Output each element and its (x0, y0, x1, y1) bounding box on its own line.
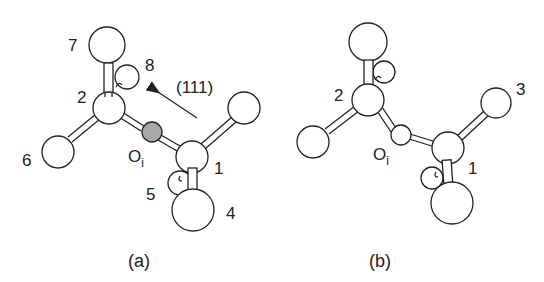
atom-8 (115, 65, 139, 89)
label-atom-8: 8 (145, 56, 154, 75)
label-atom-2: 2 (77, 88, 86, 107)
atom-b-bottom-big (431, 182, 473, 224)
oxygen-interstitial-diagram: 7 8 2 6 (111) Oi 1 5 4 (a) 2 3 (0, 0, 544, 282)
label-atom-7: 7 (68, 36, 77, 55)
label-atom-6: 6 (22, 151, 31, 170)
oxygen-interstitial-a (142, 122, 162, 142)
label-b-atom-1: 1 (468, 159, 477, 178)
atom-6 (42, 136, 74, 168)
atom-b-1 (432, 132, 464, 164)
atom-7 (89, 27, 125, 63)
atom-2 (93, 92, 125, 124)
label-atom-4: 4 (226, 204, 235, 223)
atom-4 (172, 189, 214, 231)
oxygen-interstitial-b (391, 125, 411, 145)
label-atom-5: 5 (146, 185, 155, 204)
caption-b: (b) (369, 251, 391, 271)
caption-a: (a) (128, 251, 150, 271)
atom-3 (228, 92, 260, 124)
label-atom-1: 1 (214, 159, 223, 178)
label-oxygen-a: Oi (128, 147, 144, 170)
panel-b (297, 23, 511, 224)
label-oxygen-b: Oi (373, 145, 389, 168)
atom-b-3 (481, 88, 511, 118)
label-b-atom-3: 3 (516, 80, 525, 99)
atom-b-top-small (373, 61, 395, 83)
atom-b-2 (352, 84, 384, 116)
label-direction-111: (111) (176, 78, 213, 97)
atom-b-top-big (349, 23, 387, 61)
label-b-atom-2: 2 (334, 86, 343, 105)
atom-b-left (297, 126, 329, 158)
